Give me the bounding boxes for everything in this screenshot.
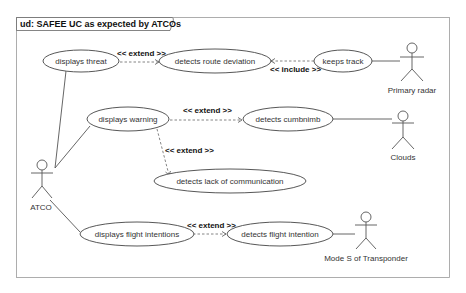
use-case-displays-threat[interactable]: displays threat (43, 50, 119, 72)
use-case-detects-lack-of-communication[interactable]: detects lack of communication (154, 169, 306, 193)
extend-label-lack-comm: << extend >> (165, 146, 214, 155)
use-case-detects-flight-intention[interactable]: detects flight intention (227, 222, 333, 246)
actor-label: Clouds (391, 153, 416, 162)
use-case-label: detects flight intention (241, 230, 318, 239)
extend-label-flight-intention: << extend >> (187, 221, 236, 230)
use-case-detects-cumbnimb[interactable]: detects cumbnimb (243, 107, 333, 131)
use-case-displays-flight-intentions[interactable]: displays flight intentions (80, 222, 194, 246)
use-case-diagram: ud: SAFEE UC as expected by ATCOs << ext… (0, 0, 466, 293)
use-case-label: displays flight intentions (95, 230, 180, 239)
use-case-label: detects route deviation (175, 57, 256, 66)
extend-label-route-deviation: << extend >> (117, 49, 166, 58)
use-case-label: detects lack of communication (176, 177, 283, 186)
use-case-label: displays warning (98, 115, 157, 124)
actor-label: Mode S of Transponder (324, 254, 408, 263)
use-case-keeps-track[interactable]: keeps track (314, 50, 372, 72)
use-case-label: displays threat (55, 57, 107, 66)
actor-label: Primary radar (388, 86, 437, 95)
diagram-title: ud: SAFEE UC as expected by ATCOs (20, 19, 181, 29)
use-case-displays-warning[interactable]: displays warning (87, 107, 169, 131)
use-case-label: keeps track (323, 57, 365, 66)
actor-label: ATCO (30, 203, 52, 212)
use-case-detects-route-deviation[interactable]: detects route deviation (159, 49, 271, 73)
include-label-keeps-track: << include >> (270, 65, 321, 74)
extend-label-cumbnimb: << extend >> (183, 106, 232, 115)
use-case-label: detects cumbnimb (256, 115, 321, 124)
